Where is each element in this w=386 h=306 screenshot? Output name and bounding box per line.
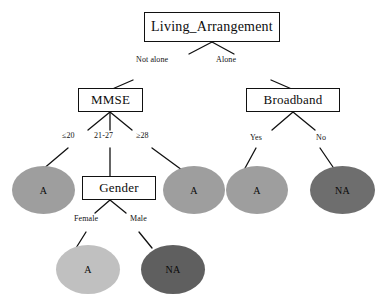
leaf-mmse-low-a[interactable]: A bbox=[12, 166, 75, 214]
edge-gender-to-leaf-male bbox=[139, 232, 152, 248]
edge-label-gender-male: Male bbox=[130, 214, 147, 223]
node-living-arrangement[interactable]: Living_Arrangement bbox=[144, 12, 280, 42]
leaf-mmse-low-label: A bbox=[40, 185, 48, 196]
leaf-gender-female-label: A bbox=[84, 264, 92, 275]
edge-broadband-yes-stub bbox=[272, 112, 293, 130]
edge-root-not-alone-stub bbox=[189, 42, 212, 54]
leaf-broadband-no-na[interactable]: NA bbox=[310, 166, 375, 214]
edge-root-alone-stub bbox=[212, 42, 234, 54]
edge-label-gender-female: Female bbox=[74, 214, 98, 223]
edge-label-not-alone: Not alone bbox=[136, 55, 168, 64]
node-broadband-label: Broadband bbox=[264, 92, 323, 108]
node-gender-label: Gender bbox=[99, 180, 138, 196]
leaf-mmse-high-a[interactable]: A bbox=[163, 166, 225, 214]
decision-tree-diagram: Living_Arrangement MMSE Broadband Gender… bbox=[0, 0, 386, 306]
edge-mmse-le20-stub bbox=[88, 112, 110, 130]
edge-gender-male-stub bbox=[110, 200, 126, 213]
leaf-broadband-no-label: NA bbox=[335, 185, 350, 196]
edge-label-broadband-yes: Yes bbox=[250, 133, 262, 142]
node-gender[interactable]: Gender bbox=[82, 176, 156, 200]
edge-label-mmse-ge28: ≥28 bbox=[136, 131, 149, 140]
leaf-broadband-yes-label: A bbox=[253, 185, 261, 196]
edge-mmse-ge28-stub bbox=[110, 112, 132, 130]
edge-label-alone: Alone bbox=[216, 55, 236, 64]
edge-mmse-to-leaf-high bbox=[152, 148, 182, 170]
node-mmse-label: MMSE bbox=[91, 92, 130, 108]
edge-label-mmse-21-27: 21-27 bbox=[94, 131, 113, 140]
leaf-gender-male-label: NA bbox=[165, 264, 180, 275]
node-mmse[interactable]: MMSE bbox=[78, 88, 143, 112]
edge-broadband-no-stub bbox=[293, 112, 315, 130]
leaf-broadband-yes-a[interactable]: A bbox=[226, 166, 288, 214]
leaf-gender-female-a[interactable]: A bbox=[56, 245, 120, 294]
leaf-gender-male-na[interactable]: NA bbox=[141, 245, 205, 294]
node-living-arrangement-label: Living_Arrangement bbox=[151, 19, 273, 35]
node-broadband[interactable]: Broadband bbox=[246, 88, 340, 112]
leaf-mmse-high-label: A bbox=[190, 185, 198, 196]
edge-gender-female-stub bbox=[95, 200, 110, 213]
edge-label-mmse-le20: ≤20 bbox=[62, 131, 75, 140]
edge-label-broadband-no: No bbox=[316, 133, 326, 142]
